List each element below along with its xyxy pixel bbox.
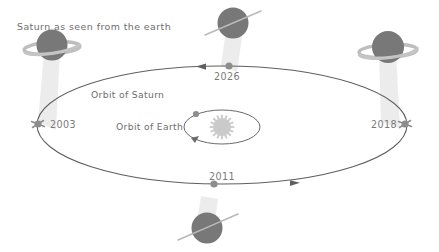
year-label-2018: 2018 (371, 119, 397, 130)
saturn-orbit-direction-arrow-2 (290, 180, 300, 186)
diagram-canvas: Saturn as seen from the earth Orbit of S… (0, 0, 439, 252)
year-label-2026: 2026 (214, 71, 240, 82)
saturn-edge-on-rings-icon-top (205, 8, 261, 39)
saturn-edge-on-rings-icon-bottom (178, 213, 238, 244)
saturn-open-rings-icon-left (24, 30, 81, 61)
beam-right (379, 52, 400, 128)
year-label-2003: 2003 (50, 119, 76, 130)
label-orbit-of-earth: Orbit of Earth (116, 121, 183, 132)
saturn-orbit-direction-arrow (196, 64, 206, 70)
earth-dot-icon (193, 111, 199, 117)
year-label-2011: 2011 (209, 171, 235, 182)
label-orbit-of-saturn: Orbit of Saturn (91, 89, 164, 100)
node-marker-2026 (225, 62, 232, 69)
sun-icon (211, 116, 234, 139)
caption-saturn-as-seen: Saturn as seen from the earth (17, 21, 171, 32)
node-marker-2018 (399, 120, 412, 127)
saturn-orbit-diagram: Saturn as seen from the earth Orbit of S… (0, 0, 439, 252)
saturn-open-rings-icon-right (359, 31, 418, 63)
